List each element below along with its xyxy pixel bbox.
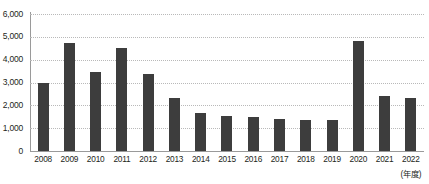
- x-axis-tick-label: 2013: [161, 154, 187, 164]
- x-axis-tick-label: 2022: [398, 154, 424, 164]
- bar-slot: [30, 14, 56, 151]
- y-axis-tick-label: 0: [18, 146, 23, 156]
- x-axis-tick-label: 2015: [214, 154, 240, 164]
- bar: [300, 120, 311, 151]
- bar-slot: [214, 14, 240, 151]
- y-axis-tick-label: 3,000: [3, 77, 23, 87]
- bar-slot: [56, 14, 82, 151]
- bar-slot: [371, 14, 397, 151]
- bar: [116, 48, 127, 151]
- x-axis-tick-label: 2010: [83, 154, 109, 164]
- x-axis-line: [30, 151, 424, 152]
- x-axis-tick-label: 2014: [188, 154, 214, 164]
- bar-slot: [135, 14, 161, 151]
- bar-slot: [398, 14, 424, 151]
- bar: [248, 117, 259, 151]
- bar: [90, 72, 101, 151]
- bar: [64, 43, 75, 151]
- bar-chart: 6,0005,0004,0003,0002,0001,0000 20082009…: [0, 0, 429, 184]
- y-axis-tick-label: 6,000: [3, 9, 23, 19]
- x-axis-tick-label: 2020: [345, 154, 371, 164]
- y-axis-tick-label: 1,000: [3, 123, 23, 133]
- x-axis-tick-label: 2008: [30, 154, 56, 164]
- bar: [143, 74, 154, 151]
- bar-slot: [83, 14, 109, 151]
- bar: [274, 119, 285, 151]
- x-axis-tick-label: 2019: [319, 154, 345, 164]
- bar-slot: [266, 14, 292, 151]
- x-axis-tick-label: 2012: [135, 154, 161, 164]
- bar-slot: [293, 14, 319, 151]
- bar: [38, 83, 49, 152]
- x-axis-tick-label: 2017: [266, 154, 292, 164]
- bar: [221, 116, 232, 151]
- y-axis-tick-label: 5,000: [3, 31, 23, 41]
- bar-slot: [240, 14, 266, 151]
- bar: [405, 98, 416, 151]
- bar-slot: [188, 14, 214, 151]
- y-axis-tick-label: 4,000: [3, 54, 23, 64]
- x-axis-tick-label: 2011: [109, 154, 135, 164]
- plot-area: 6,0005,0004,0003,0002,0001,0000: [30, 14, 424, 151]
- bar-slot: [109, 14, 135, 151]
- x-axis-tick-label: 2016: [240, 154, 266, 164]
- x-axis-tick-label: 2009: [56, 154, 82, 164]
- x-axis-tick-label: 2018: [293, 154, 319, 164]
- x-axis-tick-label: 2021: [371, 154, 397, 164]
- bar: [169, 98, 180, 151]
- bar: [195, 113, 206, 151]
- bar: [327, 120, 338, 151]
- bar: [379, 96, 390, 151]
- bar-slot: [345, 14, 371, 151]
- y-axis-tick-label: 2,000: [3, 100, 23, 110]
- bar-slot: [319, 14, 345, 151]
- bar-slot: [161, 14, 187, 151]
- x-axis-unit-label: (年度): [398, 167, 424, 179]
- bar: [353, 41, 364, 151]
